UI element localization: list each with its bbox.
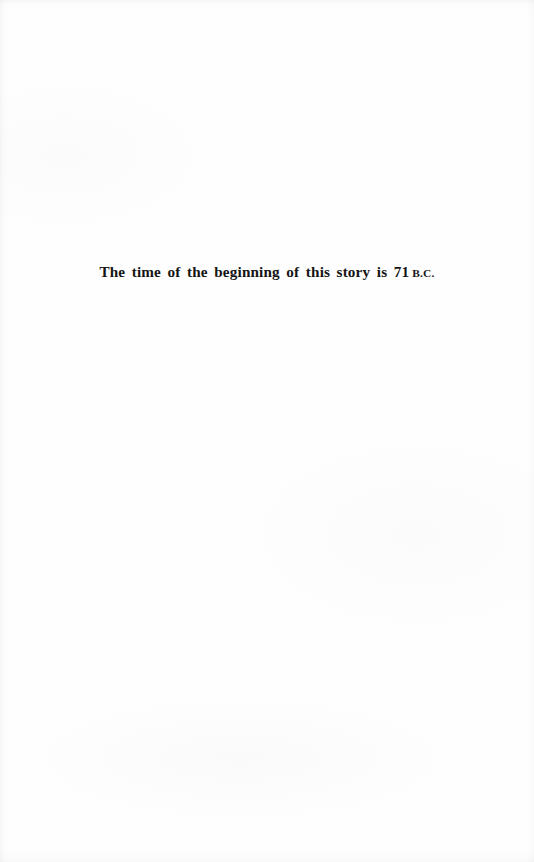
scanned-book-page: The time of the beginning of this story … (0, 0, 534, 862)
epigraph-block: The time of the beginning of this story … (0, 262, 534, 283)
epigraph-main-text: The time of the beginning of this story … (99, 263, 409, 280)
era-abbreviation: B.C. (412, 267, 434, 279)
scan-noise-overlay (0, 0, 534, 862)
scan-noise-right-edge (524, 0, 534, 862)
epigraph-line: The time of the beginning of this story … (99, 262, 434, 283)
